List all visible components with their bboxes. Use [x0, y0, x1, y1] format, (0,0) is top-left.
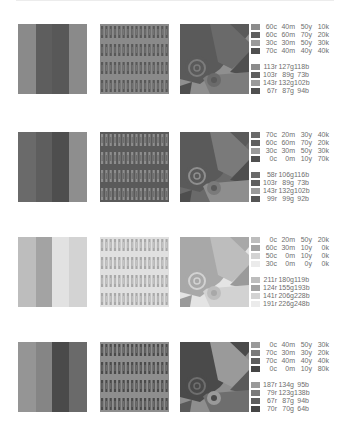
color-value: 0k — [314, 244, 329, 252]
color-value: 132g — [278, 79, 294, 87]
legend-entry: 70c20m30y40k — [251, 132, 350, 139]
color-value: 70c — [262, 357, 277, 365]
color-value: 30c — [262, 260, 277, 268]
color-value: 30k — [314, 147, 329, 155]
legend-entry: 141r206g228b — [251, 293, 350, 300]
color-swatch — [251, 64, 260, 70]
color-swatch — [251, 172, 260, 178]
color-value: 141r — [262, 292, 277, 300]
pattern-panel — [100, 342, 169, 412]
color-value: 187r — [262, 381, 277, 389]
legend-entry: 0c0m10y80k — [251, 366, 350, 373]
legend-entry: 58r106g116b — [251, 172, 350, 179]
color-value: 30m — [279, 39, 295, 47]
stripe-swatch-panel — [18, 342, 87, 412]
legend-entry: 67r87g94b — [251, 398, 350, 405]
color-value: 0c — [262, 155, 277, 163]
color-value: 191r — [262, 300, 277, 308]
color-value: 80k — [314, 365, 329, 373]
legend-entry: 60c30m10y0k — [251, 245, 350, 252]
color-value: 95b — [294, 381, 309, 389]
color-value: 60c — [262, 139, 277, 147]
color-value: 123g — [278, 389, 294, 397]
pattern-panel — [100, 24, 169, 94]
color-value: 79r — [262, 389, 277, 397]
color-swatch — [251, 350, 260, 356]
color-value: 10y — [297, 244, 312, 252]
color-swatch — [251, 358, 260, 364]
stripe — [18, 24, 36, 94]
color-value: 0m — [279, 155, 295, 163]
color-swatch — [251, 32, 260, 38]
stripe — [69, 237, 87, 307]
color-value: 70y — [297, 31, 312, 39]
color-value: 103r — [262, 179, 277, 187]
color-value: 89g — [278, 179, 294, 187]
stripe — [18, 342, 36, 412]
illustration-panel — [180, 24, 249, 94]
color-value: 50c — [262, 252, 277, 260]
legend-entry: 60c60m70y20k — [251, 32, 350, 39]
stripe — [69, 342, 87, 412]
legend-entry: 103r89g73b — [251, 72, 350, 79]
color-value: 94b — [294, 87, 309, 95]
color-value: 113r — [262, 63, 277, 71]
legend-entry: 70c40m40y40k — [251, 48, 350, 55]
legend-entry: 50c0m10y0k — [251, 253, 350, 260]
color-value: 0c — [262, 236, 277, 244]
color-value: 67r — [262, 397, 277, 405]
color-value: 127g — [278, 63, 294, 71]
color-value: 20k — [314, 31, 329, 39]
palette-row: 60c40m50y10k60c60m70y20k30c30m50y30k70c4… — [0, 24, 350, 96]
color-value: 211r — [262, 276, 277, 284]
color-value: 70c — [262, 349, 277, 357]
color-value: 180g — [278, 276, 294, 284]
color-swatch — [251, 301, 260, 307]
color-value: 58r — [262, 171, 277, 179]
color-swatch — [251, 80, 260, 86]
legend-entry: 0c0m10y70k — [251, 156, 350, 163]
color-value: 155g — [278, 284, 294, 292]
color-value: 124r — [262, 284, 277, 292]
color-value: 50y — [297, 147, 312, 155]
color-value: 87g — [278, 397, 294, 405]
legend-entry: 0c40m50y30k — [251, 342, 350, 349]
color-swatch — [251, 253, 260, 259]
stripe-swatch-panel — [18, 132, 87, 202]
color-value: 99g — [278, 195, 294, 203]
color-swatch — [251, 245, 260, 251]
color-value: 30k — [314, 39, 329, 47]
stripe — [36, 132, 52, 202]
legend-entry: 70r70g64b — [251, 406, 350, 413]
color-value: 106g — [278, 171, 294, 179]
color-value: 99r — [262, 195, 277, 203]
color-value: 40k — [314, 47, 329, 55]
color-swatch — [251, 148, 260, 154]
legend-entry: 30c30m50y30k — [251, 40, 350, 47]
color-swatch — [251, 196, 260, 202]
color-value: 87g — [278, 87, 294, 95]
color-value: 193b — [294, 284, 309, 292]
color-value: 60c — [262, 244, 277, 252]
color-value: 40k — [314, 131, 329, 139]
color-value: 40m — [279, 47, 295, 55]
color-value: 0m — [279, 365, 295, 373]
color-value: 143r — [262, 187, 277, 195]
color-value: 70c — [262, 131, 277, 139]
stripe — [36, 342, 52, 412]
stripe — [52, 132, 69, 202]
color-swatch — [251, 188, 260, 194]
stripe — [52, 24, 69, 94]
legend-entry: 60c40m50y10k — [251, 24, 350, 31]
color-value: 40k — [314, 357, 329, 365]
legend-entry: 187r134g95b — [251, 382, 350, 389]
palette-row: 70c20m30y40k60c60m70y20k30c30m50y30k0c0m… — [0, 132, 350, 204]
color-value: 60c — [262, 31, 277, 39]
legend-entry: 103r89g73b — [251, 180, 350, 187]
color-value: 40m — [279, 357, 295, 365]
color-swatch — [251, 285, 260, 291]
legend-entry: 99r99g92b — [251, 196, 350, 203]
color-value: 143r — [262, 79, 277, 87]
color-swatch — [251, 342, 260, 348]
color-swatch — [251, 237, 260, 243]
